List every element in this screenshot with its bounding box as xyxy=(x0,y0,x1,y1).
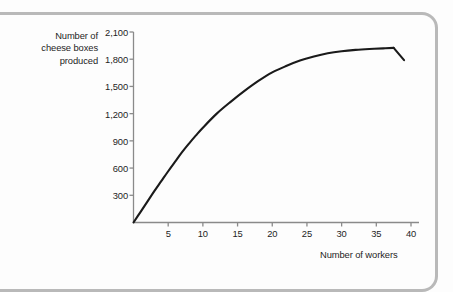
production-curve-declining-segment xyxy=(394,48,404,60)
production-curve xyxy=(134,48,394,223)
